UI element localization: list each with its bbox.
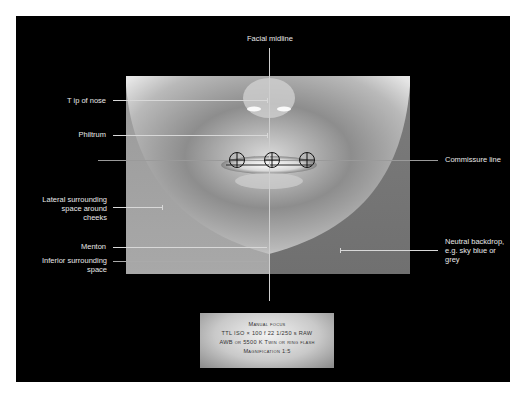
leader-inferior-space: [113, 261, 267, 262]
settings-line-4: Magnification 1:5: [200, 346, 334, 356]
label-facial-midline: Facial midline: [247, 34, 293, 43]
leader-neutral-backdrop: [340, 250, 438, 251]
label-menton: Menton: [48, 242, 106, 251]
leader-philtrum: [113, 135, 267, 136]
label-lateral-space: Lateral surrounding space around cheeks: [20, 195, 107, 222]
face-illustration: [126, 76, 410, 274]
leader-lateral-space: [113, 207, 162, 208]
leader-menton: [113, 247, 267, 248]
leader-tip-of-nose: [113, 100, 267, 101]
label-neutral-backdrop: Neutral backdrop, e.g. sky blue or grey: [445, 237, 504, 264]
camera-settings-box: Manual focus TTL ISO × 100 f 22 1/250 s …: [200, 313, 334, 368]
crosshairs: [227, 151, 317, 169]
label-philtrum: Philtrum: [48, 130, 106, 139]
label-tip-of-nose: T ip of nose: [48, 96, 106, 105]
facial-midline: [269, 48, 270, 301]
label-inferior-space: Inferior surrounding space: [20, 256, 107, 274]
face-photo: [126, 76, 410, 274]
label-commissure-line: Commissure line: [445, 155, 501, 164]
